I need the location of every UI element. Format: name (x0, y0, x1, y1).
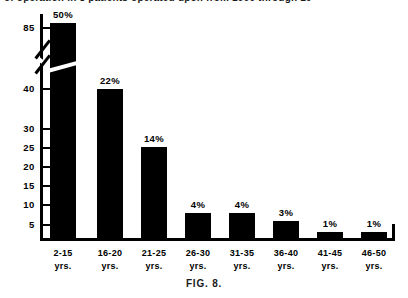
bar-21-25: 14% (141, 147, 167, 241)
x-axis-end-tick (392, 224, 395, 241)
bar-36-40: 3% (273, 221, 299, 241)
y-tick-label-25: 25 (23, 142, 35, 153)
bar-26-30: 4% (185, 213, 211, 241)
bar-break-icon (49, 61, 77, 73)
bar-value-26-30: 4% (191, 199, 205, 210)
x-label-31-35-unit: yrs. (222, 260, 262, 273)
y-tick-label-40: 40 (23, 83, 35, 94)
figure-8: of operation in 8 patients operated upon… (0, 0, 408, 298)
x-label-21-25-unit: yrs. (134, 260, 174, 273)
bar-31-35: 4% (229, 213, 255, 241)
x-label-26-30-range: 26-30 (178, 247, 218, 260)
x-label-31-35-range: 31-35 (222, 247, 262, 260)
y-tick-label-30: 30 (23, 123, 35, 134)
x-label-46-50-range: 46-50 (354, 247, 394, 260)
x-label-21-25-range: 21-25 (134, 247, 174, 260)
bar-41-45: 1% (317, 232, 343, 241)
bar-value-2-15: 50% (53, 9, 73, 20)
bar-16-20: 22% (97, 89, 123, 241)
x-label-36-40: 36-40 yrs. (266, 247, 306, 273)
y-tick-label-15: 15 (23, 180, 35, 191)
y-tick-label-5: 5 (29, 219, 35, 230)
x-label-41-45-range: 41-45 (310, 247, 350, 260)
bar-value-21-25: 14% (144, 133, 164, 144)
bar-value-31-35: 4% (235, 199, 249, 210)
x-label-41-45-unit: yrs. (310, 260, 350, 273)
x-label-2-15: 2-15 yrs. (43, 247, 83, 273)
y-tick-label-85: 85 (23, 22, 35, 33)
x-label-41-45: 41-45 yrs. (310, 247, 350, 273)
x-label-46-50: 46-50 yrs. (354, 247, 394, 273)
figure-caption: FIG. 8. (0, 278, 408, 289)
bar-value-46-50: 1% (367, 218, 381, 229)
x-label-2-15-range: 2-15 (43, 247, 83, 260)
x-label-46-50-unit: yrs. (354, 260, 394, 273)
x-label-21-25: 21-25 yrs. (134, 247, 174, 273)
x-label-2-15-unit: yrs. (43, 260, 83, 273)
y-tick-label-10: 10 (23, 199, 35, 210)
bar-value-41-45: 1% (323, 218, 337, 229)
x-label-16-20-range: 16-20 (90, 247, 130, 260)
x-label-31-35: 31-35 yrs. (222, 247, 262, 273)
x-label-16-20: 16-20 yrs. (90, 247, 130, 273)
x-label-26-30-unit: yrs. (178, 260, 218, 273)
bar-value-16-20: 22% (100, 75, 120, 86)
bar-value-36-40: 3% (279, 207, 293, 218)
x-label-36-40-range: 36-40 (266, 247, 306, 260)
x-label-26-30: 26-30 yrs. (178, 247, 218, 273)
x-label-36-40-unit: yrs. (266, 260, 306, 273)
x-label-16-20-unit: yrs. (90, 260, 130, 273)
bar-chart-plot: 85 40 30 25 20 15 10 5 (0, 0, 408, 298)
y-tick-label-20: 20 (23, 161, 35, 172)
bar-2-15: 50% (50, 23, 76, 241)
bar-46-50: 1% (361, 232, 387, 241)
